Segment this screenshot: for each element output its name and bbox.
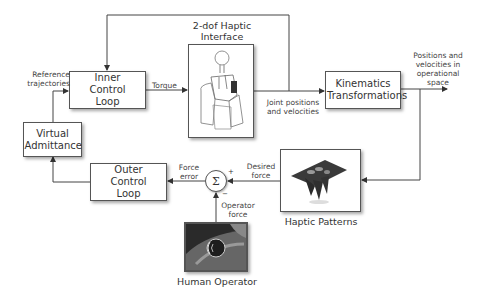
desired-force-label: Desired force bbox=[243, 162, 279, 180]
operational-space-label: Positions and velocities in operational … bbox=[408, 51, 468, 87]
human-operator-caption: Human Operator bbox=[176, 276, 258, 287]
sigma-symbol: Σ bbox=[212, 175, 220, 188]
haptic-interface-title: 2-dof Haptic Interface bbox=[184, 20, 260, 42]
virtual-admittance-block: Virtual Admittance bbox=[23, 122, 82, 157]
outer-control-loop-block: Outer Control Loop bbox=[90, 163, 167, 201]
virtual-admittance-label: Virtual Admittance bbox=[25, 128, 81, 152]
control-diagram: Inner Control Loop Virtual Admittance Ou… bbox=[0, 0, 484, 302]
outer-control-loop-label: Outer Control Loop bbox=[99, 164, 159, 200]
haptic-interface-image bbox=[188, 44, 254, 138]
reference-trajectories-label: Reference trajectories bbox=[24, 70, 70, 88]
human-hand-photo-icon bbox=[186, 224, 246, 270]
inner-control-loop-label: Inner Control Loop bbox=[78, 72, 138, 108]
torque-label: Torque bbox=[152, 81, 177, 90]
minus-sign: − bbox=[222, 190, 228, 198]
haptic-surface-plot-icon bbox=[281, 150, 361, 212]
haptic-patterns-caption: Haptic Patterns bbox=[280, 216, 362, 227]
joint-positions-label: Joint positions and velocities bbox=[264, 98, 322, 116]
summation-node: Σ bbox=[205, 170, 227, 192]
human-operator-image bbox=[184, 222, 248, 272]
inner-control-loop-block: Inner Control Loop bbox=[69, 71, 146, 109]
operator-force-label: Operator force bbox=[218, 201, 258, 219]
haptic-device-drawing-icon bbox=[189, 45, 254, 138]
kinematics-transformations-label: Kinematics Transformations bbox=[327, 78, 399, 102]
force-error-label: Force error bbox=[176, 163, 202, 181]
plus-sign: + bbox=[228, 168, 234, 176]
kinematics-transformations-block: Kinematics Transformations bbox=[325, 71, 401, 109]
haptic-patterns-image bbox=[280, 149, 361, 212]
